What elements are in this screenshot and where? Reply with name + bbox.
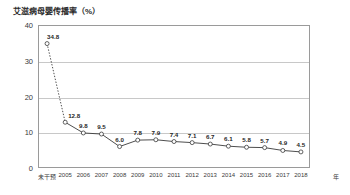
x-tick-label: 2005 [59,172,72,178]
series-segment [156,140,174,142]
data-point-marker [81,131,85,135]
data-point-label: 6.0 [115,136,124,143]
x-tick-label: 2009 [131,172,144,178]
data-point-marker [99,132,103,136]
data-point-label: 7.1 [188,132,197,139]
data-point-label: 9.5 [97,123,106,130]
series-segment [283,150,301,151]
data-point-marker [226,144,230,148]
series-segment [83,133,101,134]
y-tick-label: 20 [25,92,33,101]
series-segment [192,143,210,144]
x-tick-label: 2018 [294,172,307,178]
data-point-marker [45,42,49,46]
data-point-marker [172,140,176,144]
series-segment-dashed [47,44,65,123]
data-point-marker [281,148,285,152]
y-tick-label: 40 [25,21,33,30]
data-point-label: 9.8 [79,122,88,129]
series-segment [265,148,283,151]
y-tick-label: 30 [25,56,33,65]
data-point-label: 4.9 [278,139,287,146]
x-tick-label: 2007 [95,172,108,178]
data-point-label: 4.5 [297,141,306,148]
data-point-label: 6.1 [224,135,233,142]
series-segment [174,142,192,143]
data-point-label: 12.8 [68,112,80,119]
x-tick-label: 2006 [77,172,90,178]
data-point-marker [118,145,122,149]
data-point-marker [263,146,267,150]
data-point-label: 7.8 [133,129,142,136]
data-point-marker [208,142,212,146]
x-tick-label: 2013 [204,172,217,178]
y-axis: 010203040 [0,25,38,168]
series-segment [210,144,228,146]
data-point-label: 5.8 [242,136,251,143]
data-point-marker [154,138,158,142]
series-line-chart [38,25,310,168]
x-tick-label: 2011 [168,172,181,178]
data-point-marker [136,138,140,142]
data-point-label: 34.8 [47,33,59,40]
x-axis: 未干预2005200620072008200920102011201220132… [38,170,310,192]
chart-title: 艾滋病母婴传播率（%） [13,5,100,16]
data-point-marker [245,145,249,149]
data-point-label: 7.9 [152,129,161,136]
data-point-marker [63,120,67,124]
chart-container: 艾滋病母婴传播率（%） 010203040 34.812.89.89.56.07… [0,0,350,195]
x-tick-label: 2008 [113,172,126,178]
data-point-marker [299,150,303,154]
x-tick-label: 2010 [149,172,162,178]
x-tick-label: 未干预 [38,172,56,181]
x-tick-label: 2016 [258,172,271,178]
x-tick-label: 2017 [276,172,289,178]
x-tick-label: 2014 [222,172,235,178]
y-tick-label: 0 [29,164,33,173]
data-point-label: 6.7 [206,133,215,140]
y-tick-label: 10 [25,128,33,137]
x-tick-label: 2015 [240,172,253,178]
data-point-label: 5.7 [260,137,269,144]
data-point-marker [190,141,194,145]
series-segment [228,146,246,147]
x-tick-label: 2012 [185,172,198,178]
data-point-label: 7.4 [170,131,179,138]
x-axis-unit-label: 年 [333,172,339,181]
